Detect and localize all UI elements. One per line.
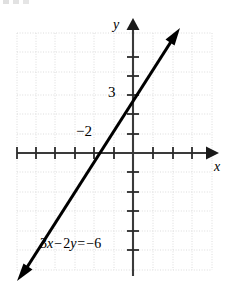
x-intercept-label: −2 <box>76 124 92 139</box>
equation-label: 3x−2y=−6 <box>40 237 101 251</box>
x-axis-arrowhead <box>206 147 219 160</box>
y-axis-label: y <box>113 18 119 32</box>
equation-minus: − <box>53 236 63 251</box>
y-intercept-label: 3 <box>108 85 116 100</box>
equation-rhs: −6 <box>86 236 101 251</box>
graph-figure: y x 3 −2 3x−2y=−6 <box>0 0 237 283</box>
equation-equals: = <box>76 236 86 251</box>
coordinate-plane <box>0 0 237 283</box>
line-arrowhead-lower <box>17 264 33 282</box>
y-axis-arrowhead <box>127 18 140 30</box>
equation-coeff-x: 3 <box>40 236 47 251</box>
line-arrowhead-upper <box>166 28 181 46</box>
x-axis-label: x <box>214 160 220 174</box>
